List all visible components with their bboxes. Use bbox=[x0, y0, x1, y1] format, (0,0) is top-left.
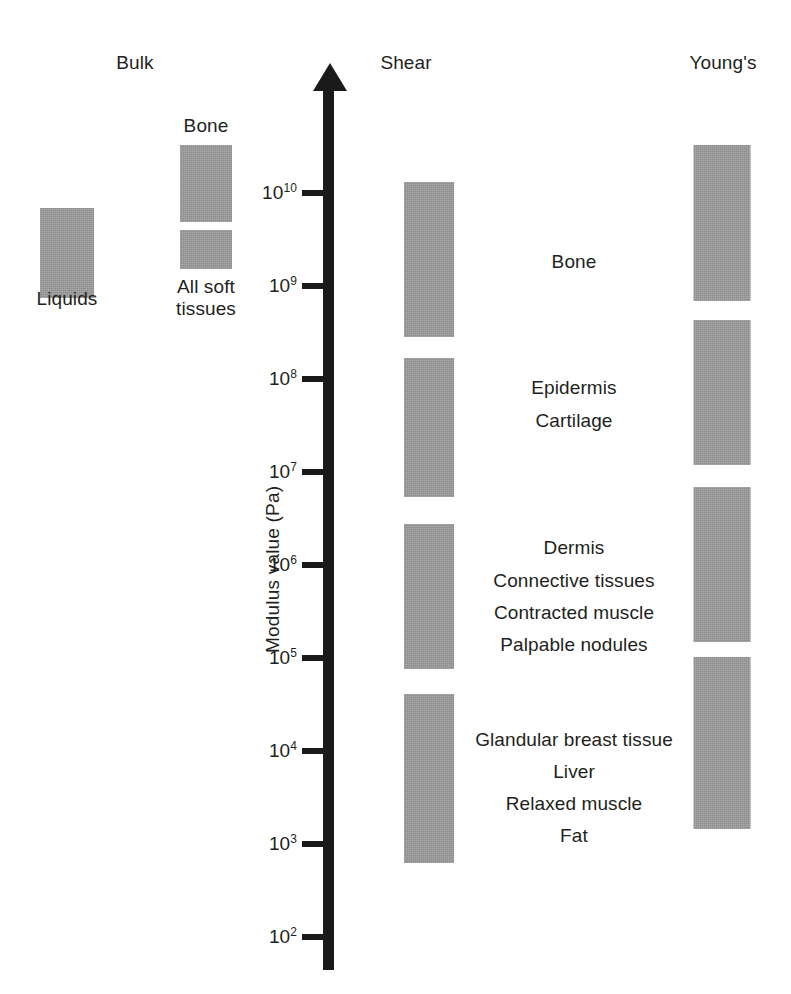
label-bulk-liquids: Liquids bbox=[37, 288, 98, 310]
tick-exponent: 10 bbox=[283, 181, 297, 195]
label-bulk-bone: Bone bbox=[184, 115, 229, 137]
label-line-2: tissues bbox=[176, 298, 236, 319]
label-bulk-all-soft-tissues: All soft tissues bbox=[146, 276, 266, 321]
axis-tick-1e9 bbox=[302, 283, 326, 289]
axis-tick-label-1e3: 103 bbox=[269, 833, 297, 855]
column-header-bulk: Bulk bbox=[116, 52, 153, 74]
label-dermis: Dermis bbox=[544, 537, 605, 559]
label-cartilage: Cartilage bbox=[536, 410, 613, 432]
label-bone: Bone bbox=[552, 251, 597, 273]
modulus-value-chart: Bulk Shear Young's 1010 109 108 107 106 … bbox=[0, 0, 791, 994]
tick-base: 10 bbox=[269, 926, 290, 947]
column-header-shear: Shear bbox=[380, 52, 431, 74]
label-relaxed-muscle: Relaxed muscle bbox=[506, 793, 643, 815]
axis-tick-label-1e2: 102 bbox=[269, 926, 297, 948]
bar-shear-bone bbox=[404, 182, 454, 337]
axis-title: Modulus value (Pa) bbox=[262, 486, 284, 653]
tick-exponent: 7 bbox=[290, 460, 297, 474]
label-epidermis: Epidermis bbox=[531, 377, 616, 399]
tick-exponent: 2 bbox=[290, 925, 297, 939]
axis-tick-label-1e7: 107 bbox=[269, 461, 297, 483]
axis-tick-label-1e10: 1010 bbox=[262, 182, 297, 204]
bar-youngs-dermis-group bbox=[694, 487, 751, 642]
bar-bulk-bone bbox=[180, 145, 232, 222]
axis-line bbox=[323, 88, 334, 970]
tick-base: 10 bbox=[269, 275, 290, 296]
label-palpable-nodules: Palpable nodules bbox=[500, 634, 647, 656]
label-glandular-breast-tissue: Glandular breast tissue bbox=[475, 729, 673, 751]
bar-shear-soft-tissue-group bbox=[404, 694, 454, 863]
tick-base: 10 bbox=[269, 740, 290, 761]
bar-youngs-bone bbox=[694, 145, 751, 301]
column-header-youngs: Young's bbox=[689, 52, 756, 74]
axis-tick-1e5 bbox=[302, 655, 326, 661]
tick-base: 10 bbox=[269, 461, 290, 482]
axis-tick-label-1e8: 108 bbox=[269, 368, 297, 390]
bar-youngs-epidermis-cartilage bbox=[694, 320, 751, 465]
tick-exponent: 5 bbox=[290, 646, 297, 660]
label-liver: Liver bbox=[553, 761, 595, 783]
bar-shear-epidermis-cartilage bbox=[404, 358, 454, 497]
label-contracted-muscle: Contracted muscle bbox=[494, 602, 654, 624]
tick-base: 10 bbox=[269, 833, 290, 854]
axis-tick-1e4 bbox=[302, 748, 326, 754]
axis-tick-1e7 bbox=[302, 469, 326, 475]
tick-exponent: 6 bbox=[290, 553, 297, 567]
axis-tick-label-1e9: 109 bbox=[269, 275, 297, 297]
axis-tick-1e6 bbox=[302, 562, 326, 568]
axis-arrow-icon bbox=[313, 63, 347, 91]
axis-tick-1e3 bbox=[302, 841, 326, 847]
axis-tick-1e8 bbox=[302, 376, 326, 382]
label-line-1: All soft bbox=[177, 276, 235, 297]
bar-bulk-liquids bbox=[40, 208, 94, 298]
tick-exponent: 4 bbox=[290, 739, 297, 753]
tick-base: 10 bbox=[262, 182, 283, 203]
label-fat: Fat bbox=[560, 825, 588, 847]
bar-bulk-all-soft-tissues bbox=[180, 230, 232, 269]
axis-tick-1e2 bbox=[302, 934, 326, 940]
tick-exponent: 9 bbox=[290, 274, 297, 288]
axis-tick-label-1e4: 104 bbox=[269, 740, 297, 762]
tick-exponent: 3 bbox=[290, 832, 297, 846]
bar-shear-dermis-group bbox=[404, 524, 454, 669]
axis-tick-1e10 bbox=[302, 190, 326, 196]
tick-base: 10 bbox=[269, 368, 290, 389]
bar-youngs-soft-tissue-group bbox=[694, 657, 751, 829]
label-connective-tissues: Connective tissues bbox=[493, 570, 654, 592]
tick-exponent: 8 bbox=[290, 367, 297, 381]
